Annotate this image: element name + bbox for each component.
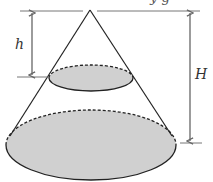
cone-similarity-diagram: y g h H — [0, 0, 213, 182]
small-height-label: h — [15, 36, 24, 52]
large-height-label: H — [194, 66, 208, 82]
heading-fragment: y g — [149, 0, 170, 5]
large-cone-base — [6, 110, 176, 180]
small-cone-base — [49, 65, 133, 91]
